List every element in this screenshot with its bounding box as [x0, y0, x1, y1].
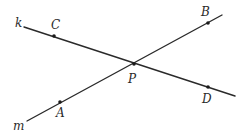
point-b-dot [206, 21, 210, 25]
point-c-dot [52, 34, 56, 38]
point-d-dot [206, 85, 210, 89]
geometry-figure: k m C B P D A [0, 0, 248, 139]
diagram-canvas: k m C B P D A [0, 0, 248, 139]
point-d-label: D [201, 92, 212, 106]
line-k-label: k [15, 16, 22, 30]
point-a-label: A [55, 106, 65, 120]
point-b-label: B [200, 5, 210, 19]
point-p-dot [132, 62, 136, 66]
point-p-label: P [127, 72, 137, 86]
point-a-dot [58, 100, 62, 104]
line-m-label: m [13, 119, 24, 133]
point-c-label: C [51, 18, 60, 32]
